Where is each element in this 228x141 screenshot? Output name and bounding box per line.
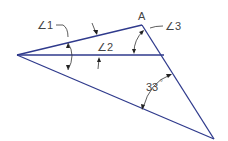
- angle-1-label: ∠1: [37, 19, 53, 31]
- angle-3-arrow-bottom: [132, 49, 136, 54]
- angle-diagram: ∠1 ∠2 ∠3 A 33 °: [0, 0, 228, 141]
- angle-3-leader: [150, 26, 163, 28]
- lower-ray: [17, 55, 214, 139]
- angle-2-label: ∠2: [97, 41, 113, 53]
- angle-1-leader: [56, 25, 68, 37]
- angle-3-label: ∠3: [165, 20, 181, 32]
- point-a-label: A: [138, 10, 146, 22]
- upper-ray: [17, 25, 142, 55]
- angle-2-arrow-lower: [97, 57, 101, 62]
- degree-symbol: °: [160, 79, 163, 86]
- angle-2-arrow-upper: [93, 30, 98, 35]
- angle-33-value: 33: [146, 81, 158, 93]
